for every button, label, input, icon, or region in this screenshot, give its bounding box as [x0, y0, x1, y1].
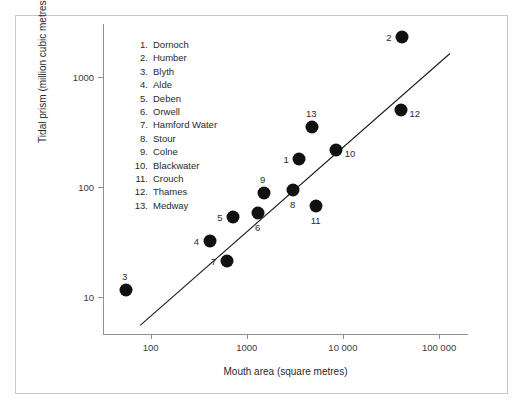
- legend-item-name: Blackwater: [153, 159, 199, 172]
- data-point-10[interactable]: [330, 144, 343, 157]
- legend-item-name: Dornoch: [153, 38, 189, 51]
- data-point-label-1: 1: [283, 153, 288, 164]
- legend-item-name: Hamford Water: [153, 118, 217, 131]
- data-point-4[interactable]: [203, 235, 216, 248]
- legend: 1.Dornoch2.Humber3.Blyth4.Alde5.Deben6.O…: [131, 38, 217, 212]
- legend-item: 10.Blackwater: [131, 159, 217, 172]
- legend-item: 9.Colne: [131, 145, 217, 158]
- legend-item-name: Alde: [153, 78, 172, 91]
- legend-item-name: Stour: [153, 132, 176, 145]
- legend-item: 11.Crouch: [131, 172, 217, 185]
- data-point-label-4: 4: [194, 236, 199, 247]
- legend-item-name: Thames: [153, 185, 187, 198]
- x-tick-label: 100 000: [422, 342, 456, 353]
- legend-item-number: 3.: [131, 65, 153, 78]
- x-tick-label: 100: [143, 342, 159, 353]
- y-tick-label: 10: [83, 291, 94, 302]
- legend-item-number: 11.: [131, 172, 153, 185]
- data-point-2[interactable]: [395, 30, 408, 43]
- y-tick-label: 100: [78, 181, 94, 192]
- data-point-label-10: 10: [345, 148, 356, 159]
- x-tick-label: 1000: [236, 342, 257, 353]
- legend-item-name: Deben: [153, 92, 181, 105]
- data-point-label-3: 3: [122, 271, 127, 282]
- legend-item-number: 12.: [131, 185, 153, 198]
- legend-item: 12.Thames: [131, 185, 217, 198]
- legend-item-number: 5.: [131, 92, 153, 105]
- data-point-12[interactable]: [394, 103, 407, 116]
- legend-item: 1.Dornoch: [131, 38, 217, 51]
- legend-item-number: 2.: [131, 51, 153, 64]
- legend-item: 4.Alde: [131, 78, 217, 91]
- data-point-label-9: 9: [260, 173, 265, 184]
- data-point-label-12: 12: [409, 107, 420, 118]
- data-point-9[interactable]: [257, 186, 270, 199]
- legend-item: 7.Hamford Water: [131, 118, 217, 131]
- legend-item-number: 13.: [131, 199, 153, 212]
- legend-item-number: 1.: [131, 38, 153, 51]
- data-point-7[interactable]: [220, 255, 233, 268]
- data-point-3[interactable]: [119, 284, 132, 297]
- figure-container: Tidal prism (million cubic metres) 10100…: [0, 0, 524, 414]
- legend-item-number: 10.: [131, 159, 153, 172]
- data-point-label-11: 11: [311, 214, 321, 225]
- legend-item: 6.Orwell: [131, 105, 217, 118]
- y-axis-label-wrapper: Tidal prism (million cubic metres): [46, 60, 62, 310]
- legend-item: 8.Stour: [131, 132, 217, 145]
- data-point-1[interactable]: [293, 152, 306, 165]
- data-point-label-2: 2: [386, 31, 391, 42]
- legend-item-name: Colne: [153, 145, 178, 158]
- legend-item: 2.Humber: [131, 51, 217, 64]
- legend-item-name: Blyth: [153, 65, 174, 78]
- data-point-8[interactable]: [286, 184, 299, 197]
- data-point-5[interactable]: [227, 211, 240, 224]
- legend-item-name: Orwell: [153, 105, 180, 118]
- legend-item: 13.Medway: [131, 199, 217, 212]
- legend-item-name: Medway: [153, 199, 188, 212]
- y-tick-label: 1000: [73, 71, 94, 82]
- x-tick-label: 10 000: [328, 342, 357, 353]
- data-point-6[interactable]: [251, 206, 264, 219]
- legend-item-number: 7.: [131, 118, 153, 131]
- data-point-11[interactable]: [309, 199, 322, 212]
- legend-item-name: Crouch: [153, 172, 184, 185]
- legend-item: 5.Deben: [131, 92, 217, 105]
- legend-item-number: 6.: [131, 105, 153, 118]
- legend-item-name: Humber: [153, 51, 187, 64]
- data-point-label-8: 8: [290, 199, 295, 210]
- data-point-label-13: 13: [306, 107, 317, 118]
- data-point-label-7: 7: [211, 256, 216, 267]
- legend-item-number: 8.: [131, 132, 153, 145]
- data-point-label-6: 6: [255, 221, 260, 232]
- legend-item-number: 4.: [131, 78, 153, 91]
- legend-item: 3.Blyth: [131, 65, 217, 78]
- y-axis-label: Tidal prism (million cubic metres): [37, 0, 48, 190]
- x-axis-label: Mouth area (square metres): [103, 366, 468, 377]
- data-point-label-5: 5: [217, 212, 222, 223]
- data-point-13[interactable]: [306, 120, 319, 133]
- legend-item-number: 9.: [131, 145, 153, 158]
